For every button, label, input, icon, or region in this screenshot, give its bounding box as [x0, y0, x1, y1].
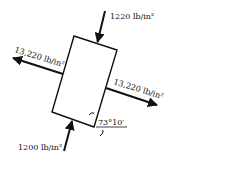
angle-label: 73°10′	[98, 118, 124, 127]
top-stress-arrow	[98, 11, 106, 42]
right-stress-label: 13,220 lb/in²	[112, 77, 164, 101]
bottom-stress-arrow	[64, 121, 72, 151]
bottom-stress-label: 1200 lb/in²	[18, 143, 62, 152]
angle-tick-icon	[100, 130, 103, 136]
stress-element-rectangle	[52, 36, 117, 127]
top-stress-label: 1220 lb/in²	[110, 12, 154, 21]
angle-arc-icon	[89, 113, 94, 115]
stress-element-diagram: 1220 lb/in² 1200 lb/in² 13,220 lb/in² 13…	[0, 0, 232, 170]
